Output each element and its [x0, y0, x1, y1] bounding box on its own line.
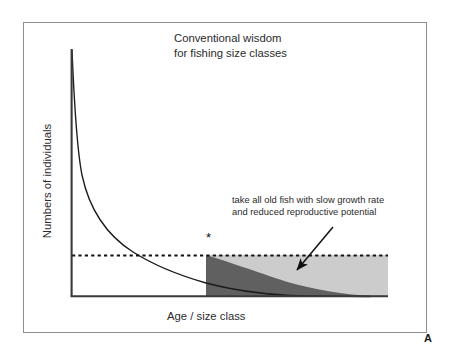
y-axis-label: Numbers of individuals [41, 91, 53, 271]
harvest-annotation-text: take all old fish with slow growth rate … [232, 194, 437, 218]
panel-letter-label: A [424, 332, 432, 344]
figure-root: Conventional wisdom for fishing size cla… [0, 0, 449, 358]
chart-title: Conventional wisdom for fishing size cla… [174, 31, 374, 60]
x-axis-label: Age / size class [167, 310, 245, 322]
threshold-asterisk-marker: * [206, 231, 211, 244]
